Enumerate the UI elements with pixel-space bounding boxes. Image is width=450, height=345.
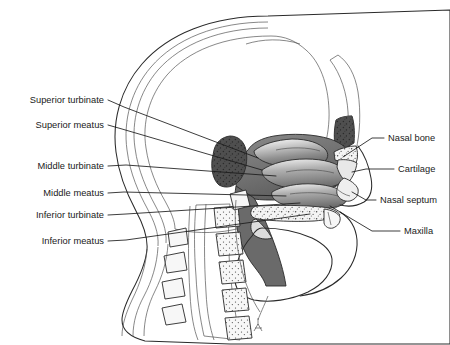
- label-nasal-bone: Nasal bone: [388, 133, 435, 143]
- labels-left-group: Superior turbinate Superior meatus Middl…: [30, 95, 105, 246]
- leader-cartilage: [352, 169, 394, 172]
- label-middle-meatus: Middle meatus: [43, 188, 104, 198]
- labels-right-group: Nasal bone Cartilage Nasal septum Maxill…: [380, 133, 437, 236]
- label-cartilage: Cartilage: [398, 164, 435, 174]
- leader-inferior-meatus: [108, 214, 310, 241]
- label-maxilla: Maxilla: [404, 226, 434, 236]
- anatomical-figure: Superior turbinate Superior meatus Middl…: [0, 0, 450, 345]
- cervical-spine: [162, 190, 252, 340]
- label-superior-turbinate: Superior turbinate: [30, 95, 104, 105]
- neck-contours: [122, 244, 168, 336]
- label-middle-turbinate: Middle turbinate: [38, 161, 104, 171]
- label-inferior-meatus: Inferior meatus: [42, 236, 105, 246]
- leader-superior-turbinate: [108, 100, 258, 158]
- figure-canvas: Superior turbinate Superior meatus Middl…: [0, 0, 450, 345]
- label-superior-meatus: Superior meatus: [35, 120, 104, 130]
- label-nasal-septum: Nasal septum: [380, 195, 437, 205]
- label-inferior-turbinate: Inferior turbinate: [36, 210, 104, 220]
